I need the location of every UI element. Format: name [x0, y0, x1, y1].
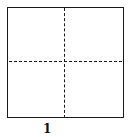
figure-label: 1 — [43, 123, 51, 135]
vertical-dashed-line — [64, 8, 65, 118]
horizontal-dashed-line — [9, 61, 122, 62]
square-outline — [7, 7, 124, 118]
